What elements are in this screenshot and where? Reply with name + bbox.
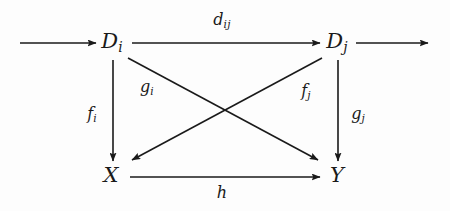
edge-label-gj: gj [351, 106, 365, 124]
node-label-X: X [103, 165, 118, 189]
node-label-Y: Y [330, 165, 344, 189]
node-Dj-sub: j [343, 39, 348, 55]
node-Y-base: Y [330, 163, 344, 187]
diagram-canvas: Di Dj X Y dij fi gi fj gj h [0, 0, 450, 211]
node-Di-sub: i [118, 39, 123, 55]
edge-fj-sub: j [307, 89, 310, 101]
node-X-base: X [103, 163, 118, 187]
edge-dij-base: d [213, 10, 223, 29]
edge-label-dij: dij [213, 12, 230, 30]
edge-fi-sub: i [93, 112, 97, 124]
edge-label-h: h [217, 185, 227, 203]
node-label-Dj: Dj [326, 31, 348, 55]
arrow-Di-to-Y [128, 58, 318, 160]
edge-gi-base: g [140, 77, 150, 96]
node-Di-base: D [101, 29, 118, 53]
edge-label-fi: fi [87, 106, 97, 124]
edge-gi-sub: i [150, 85, 154, 97]
edge-label-gi: gi [140, 79, 154, 97]
edge-gj-base: g [351, 104, 361, 123]
edge-h-base: h [217, 183, 227, 202]
edge-dij-sub: ij [224, 18, 231, 30]
arrow-Dj-to-X [132, 58, 322, 160]
node-Dj-base: D [326, 29, 343, 53]
edge-label-fj: fj [301, 83, 310, 101]
edge-gj-sub: j [361, 112, 364, 124]
commutative-diagram-arrows [0, 0, 450, 211]
node-label-Di: Di [101, 31, 123, 55]
